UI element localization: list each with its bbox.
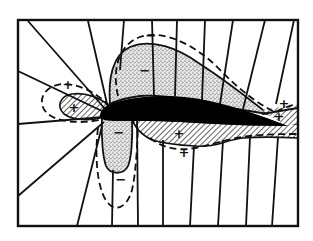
airfoil-pressure-diagram: − − + + − − + + + + xyxy=(0,0,313,241)
upper-outer-minus-label: − xyxy=(146,28,157,43)
lower-front-outer-minus-label: − xyxy=(116,172,127,187)
upper-inner-minus-label: − xyxy=(140,63,151,78)
trailing-inner-plus-label: + xyxy=(274,109,285,124)
lower-outer-plus-label: + xyxy=(179,145,190,160)
leading-inner-plus-label: + xyxy=(69,100,80,115)
lower-front-inner-minus-label: − xyxy=(114,125,125,140)
leading-outer-plus-label: + xyxy=(63,77,74,92)
lower-inner-plus-label: + xyxy=(174,126,185,141)
